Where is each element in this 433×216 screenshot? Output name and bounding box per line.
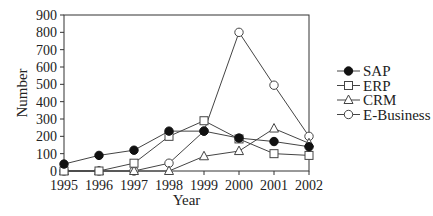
- open-square-marker-icon: [305, 151, 313, 159]
- y-tick-label: 200: [36, 129, 57, 144]
- open-circle-marker-icon: [270, 81, 278, 89]
- filled-circle-marker-icon: [344, 67, 352, 75]
- filled-circle-marker-icon: [95, 151, 103, 159]
- open-square-marker-icon: [345, 82, 353, 90]
- x-tick-label: 2002: [295, 178, 323, 193]
- open-triangle-marker-icon: [344, 95, 353, 104]
- open-triangle-marker-icon: [165, 166, 174, 175]
- x-axis: 19951996199719981999200020012002: [50, 171, 323, 193]
- filled-circle-marker-icon: [235, 134, 243, 142]
- filled-circle-marker-icon: [200, 127, 208, 135]
- x-tick-label: 2000: [225, 178, 253, 193]
- open-circle-marker-icon: [235, 28, 243, 36]
- x-tick-label: 1996: [85, 178, 113, 193]
- filled-circle-marker-icon: [305, 143, 313, 151]
- x-tick-label: 1998: [155, 178, 183, 193]
- legend-label: E-Business: [363, 107, 431, 123]
- filled-circle-marker-icon: [60, 160, 68, 168]
- y-axis-title: Number: [14, 68, 30, 117]
- x-axis-title: Year: [173, 192, 201, 208]
- open-circle-marker-icon: [344, 110, 352, 118]
- y-tick-label: 300: [36, 112, 57, 127]
- y-axis: 0100200300400500600700800900: [36, 8, 64, 179]
- line-chart: 0100200300400500600700800900199519961997…: [0, 0, 433, 216]
- y-tick-label: 100: [36, 147, 57, 162]
- open-square-marker-icon: [95, 167, 103, 175]
- x-tick-label: 2001: [260, 178, 288, 193]
- y-tick-label: 700: [36, 43, 57, 58]
- open-square-marker-icon: [200, 117, 208, 125]
- open-square-marker-icon: [130, 159, 138, 167]
- legend-item: E-Business: [337, 107, 431, 123]
- x-tick-label: 1999: [190, 178, 218, 193]
- y-tick-label: 500: [36, 77, 57, 92]
- x-tick-label: 1995: [50, 178, 78, 193]
- filled-circle-marker-icon: [165, 127, 173, 135]
- y-tick-label: 400: [36, 95, 57, 110]
- legend: SAPERPCRME-Business: [337, 63, 431, 123]
- filled-circle-marker-icon: [270, 137, 278, 145]
- filled-circle-marker-icon: [130, 146, 138, 154]
- open-square-marker-icon: [270, 150, 278, 158]
- y-tick-label: 600: [36, 60, 57, 75]
- y-tick-label: 800: [36, 25, 57, 40]
- y-tick-label: 0: [50, 164, 57, 179]
- open-triangle-marker-icon: [270, 124, 279, 133]
- y-tick-label: 900: [36, 8, 57, 23]
- open-triangle-marker-icon: [235, 146, 244, 155]
- x-tick-label: 1997: [120, 178, 148, 193]
